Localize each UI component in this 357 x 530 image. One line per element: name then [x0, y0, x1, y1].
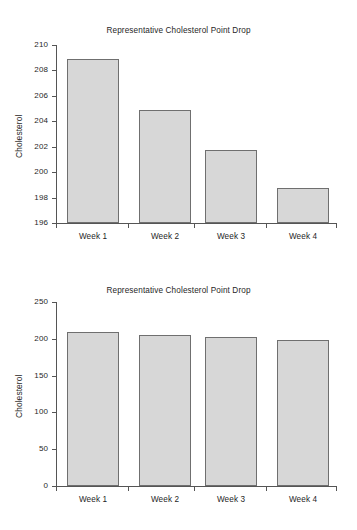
bar-week-3 — [205, 150, 257, 223]
x-tick-mark — [336, 487, 337, 491]
chart-title: Representative Cholesterol Point Drop — [0, 286, 357, 295]
y-tick-mark — [52, 147, 56, 148]
y-tick-label: 206 — [10, 91, 48, 100]
y-tick-mark — [52, 339, 56, 340]
y-tick-mark — [52, 70, 56, 71]
bar-week-4 — [277, 188, 329, 223]
x-category-label: Week 1 — [53, 495, 133, 504]
x-tick-mark — [128, 224, 129, 228]
x-tick-mark — [266, 487, 267, 491]
y-tick-label: 50 — [10, 444, 48, 453]
y-tick-label: 210 — [10, 40, 48, 49]
y-tick-mark — [52, 45, 56, 46]
y-tick-label: 100 — [10, 407, 48, 416]
y-tick-label: 208 — [10, 65, 48, 74]
y-tick-label: 196 — [10, 218, 48, 227]
y-tick-label: 250 — [10, 297, 48, 306]
bar-week-2 — [139, 110, 191, 223]
chart-title: Representative Cholesterol Point Drop — [0, 26, 357, 35]
x-tick-mark — [128, 487, 129, 491]
x-tick-mark — [336, 224, 337, 228]
y-axis-line — [56, 302, 57, 487]
x-tick-mark — [56, 224, 57, 228]
x-tick-mark — [194, 487, 195, 491]
x-tick-mark — [194, 224, 195, 228]
y-tick-label: 202 — [10, 142, 48, 151]
y-tick-mark — [52, 449, 56, 450]
x-category-label: Week 4 — [263, 232, 343, 241]
y-tick-label: 204 — [10, 116, 48, 125]
bar-week-4 — [277, 340, 329, 486]
x-axis-line — [56, 223, 337, 224]
y-tick-mark — [52, 172, 56, 173]
x-category-label: Week 3 — [191, 495, 271, 504]
bar-week-3 — [205, 337, 257, 486]
y-tick-mark — [52, 376, 56, 377]
y-tick-mark — [52, 412, 56, 413]
y-tick-mark — [52, 121, 56, 122]
chart-figure-top: Representative Cholesterol Point Drop Ch… — [0, 0, 357, 265]
bar-week-2 — [139, 335, 191, 486]
x-category-label: Week 4 — [263, 495, 343, 504]
y-tick-label: 0 — [10, 481, 48, 490]
x-tick-mark — [56, 487, 57, 491]
y-tick-label: 200 — [10, 334, 48, 343]
y-tick-label: 150 — [10, 371, 48, 380]
y-tick-mark — [52, 96, 56, 97]
y-tick-label: 198 — [10, 193, 48, 202]
y-tick-mark — [52, 302, 56, 303]
chart-figure-bottom: Representative Cholesterol Point Drop Ch… — [0, 265, 357, 530]
x-tick-mark — [266, 224, 267, 228]
y-tick-label: 200 — [10, 167, 48, 176]
bar-week-1 — [67, 332, 119, 486]
y-axis-line — [56, 45, 57, 224]
bar-week-1 — [67, 59, 119, 223]
x-category-label: Week 3 — [191, 232, 271, 241]
y-tick-mark — [52, 198, 56, 199]
x-axis-line — [56, 486, 337, 487]
x-category-label: Week 1 — [53, 232, 133, 241]
